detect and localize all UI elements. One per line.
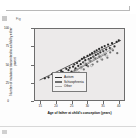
- data-point: [84, 59, 86, 61]
- y-tick-label: 100: [0, 26, 9, 30]
- y-tick-label: 25: [0, 81, 9, 85]
- data-point: [98, 48, 100, 50]
- data-point: [69, 67, 71, 69]
- data-point: [86, 55, 88, 57]
- y-axis-label: Number of mutations transmitted to a chi…: [10, 27, 17, 97]
- page-bottom-marker: [2, 130, 7, 134]
- figure-tag-label: Fig: [16, 17, 21, 21]
- data-point: [83, 68, 85, 70]
- data-point: [76, 62, 78, 64]
- data-point: [90, 57, 92, 59]
- data-point: [96, 61, 98, 63]
- data-point: [78, 60, 80, 62]
- data-point: [72, 66, 74, 68]
- x-tick-mark: [103, 101, 104, 104]
- x-tick-mark: [56, 101, 57, 104]
- x-tick-mark: [87, 101, 88, 104]
- data-point: [116, 41, 118, 43]
- data-point: [67, 69, 69, 71]
- chart-legend: AutismSchizophreniaOther: [52, 72, 87, 92]
- data-point: [89, 53, 91, 55]
- x-tick-mark: [72, 101, 73, 104]
- x-tick-label: 30: [80, 104, 94, 108]
- data-point: [118, 39, 120, 41]
- data-point: [87, 65, 89, 67]
- legend-item-label: Other: [64, 84, 72, 89]
- bottom-divider-rule: [0, 126, 136, 127]
- page-corner-marker: [2, 16, 7, 21]
- data-point: [106, 55, 108, 57]
- data-point: [81, 58, 83, 60]
- x-tick-mark: [40, 101, 41, 104]
- data-point: [65, 68, 67, 70]
- legend-swatch-icon: [55, 81, 62, 82]
- data-point: [73, 63, 75, 65]
- legend-swatch-icon: [55, 77, 62, 78]
- data-point: [47, 76, 49, 78]
- y-tick-label: 75: [0, 44, 9, 48]
- x-tick-label: 15: [33, 104, 47, 108]
- data-point: [93, 51, 95, 53]
- data-point: [111, 42, 113, 44]
- data-point: [77, 65, 79, 67]
- data-point: [91, 52, 93, 54]
- data-point: [101, 46, 103, 48]
- y-tick-mark: [31, 101, 34, 102]
- data-point: [83, 56, 85, 58]
- data-point: [105, 48, 107, 50]
- x-tick-label: 20: [49, 104, 63, 108]
- x-tick-label: 25: [65, 104, 79, 108]
- figure-page: Fig Number of mutations transmitted to a…: [0, 0, 136, 138]
- top-divider-endcap: [129, 6, 130, 11]
- data-point: [104, 45, 106, 47]
- data-point: [109, 51, 111, 53]
- data-point: [99, 51, 101, 53]
- data-point: [98, 56, 100, 58]
- data-point: [96, 49, 98, 51]
- data-point: [113, 45, 115, 47]
- document-top-strip: [0, 0, 136, 14]
- x-tick-label: 35: [96, 104, 110, 108]
- scatter-chart: Number of mutations transmitted to a chi…: [0, 22, 136, 126]
- data-point: [80, 63, 82, 65]
- legend-item[interactable]: Other: [55, 84, 84, 89]
- x-axis-label: Age of father at child's conception (yea…: [34, 111, 125, 115]
- x-tick-mark: [119, 101, 120, 104]
- y-tick-label: 50: [0, 63, 9, 67]
- data-point: [90, 64, 92, 66]
- data-point: [116, 52, 118, 54]
- x-tick-label: 40: [112, 104, 126, 108]
- legend-swatch-icon: [55, 86, 62, 87]
- data-point: [107, 44, 109, 46]
- data-point: [95, 54, 97, 56]
- data-point: [44, 77, 46, 79]
- y-tick-label: 0: [0, 99, 9, 103]
- top-divider-rule: [6, 10, 130, 11]
